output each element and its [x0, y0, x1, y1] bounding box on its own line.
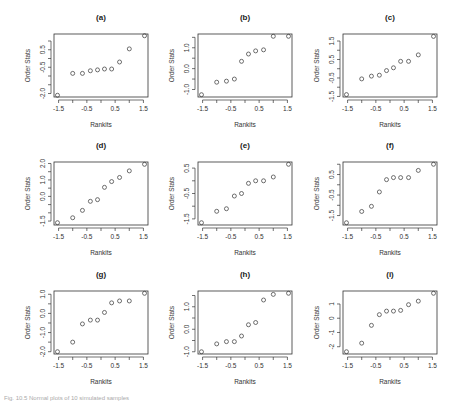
- x-tick-label: -0.5: [370, 362, 382, 369]
- data-point: [416, 299, 420, 303]
- data-point: [399, 308, 403, 312]
- data-point: [377, 313, 381, 317]
- data-point: [385, 309, 389, 313]
- data-point: [432, 291, 436, 295]
- plot-frame: [343, 291, 437, 354]
- data-point: [344, 350, 348, 354]
- y-tick-label: -2: [328, 343, 335, 349]
- y-tick-label: -1: [328, 329, 335, 335]
- y-tick-label: 1: [328, 302, 335, 306]
- y-axis-label: Order Stats: [313, 305, 320, 339]
- plot-title: (i): [386, 270, 394, 279]
- x-tick-label: -1.5: [342, 362, 354, 369]
- data-point: [369, 323, 373, 327]
- x-tick-label: 1.5: [428, 362, 437, 369]
- plot-i: (i)-1.5-0.50.51.5-2-101RankitsOrder Stat…: [0, 0, 459, 403]
- figure-caption: Fig. 10.5 Normal plots of 10 simulated s…: [4, 395, 129, 401]
- plot-panel-i: (i)-1.5-0.50.51.5-2-101RankitsOrder Stat…: [0, 0, 153, 130]
- y-tick-label: 0: [328, 316, 335, 320]
- x-axis-label: Rankits: [379, 378, 401, 385]
- data-point: [360, 341, 364, 345]
- data-point: [407, 303, 411, 307]
- x-tick-label: 0.5: [400, 362, 409, 369]
- data-point: [391, 309, 395, 313]
